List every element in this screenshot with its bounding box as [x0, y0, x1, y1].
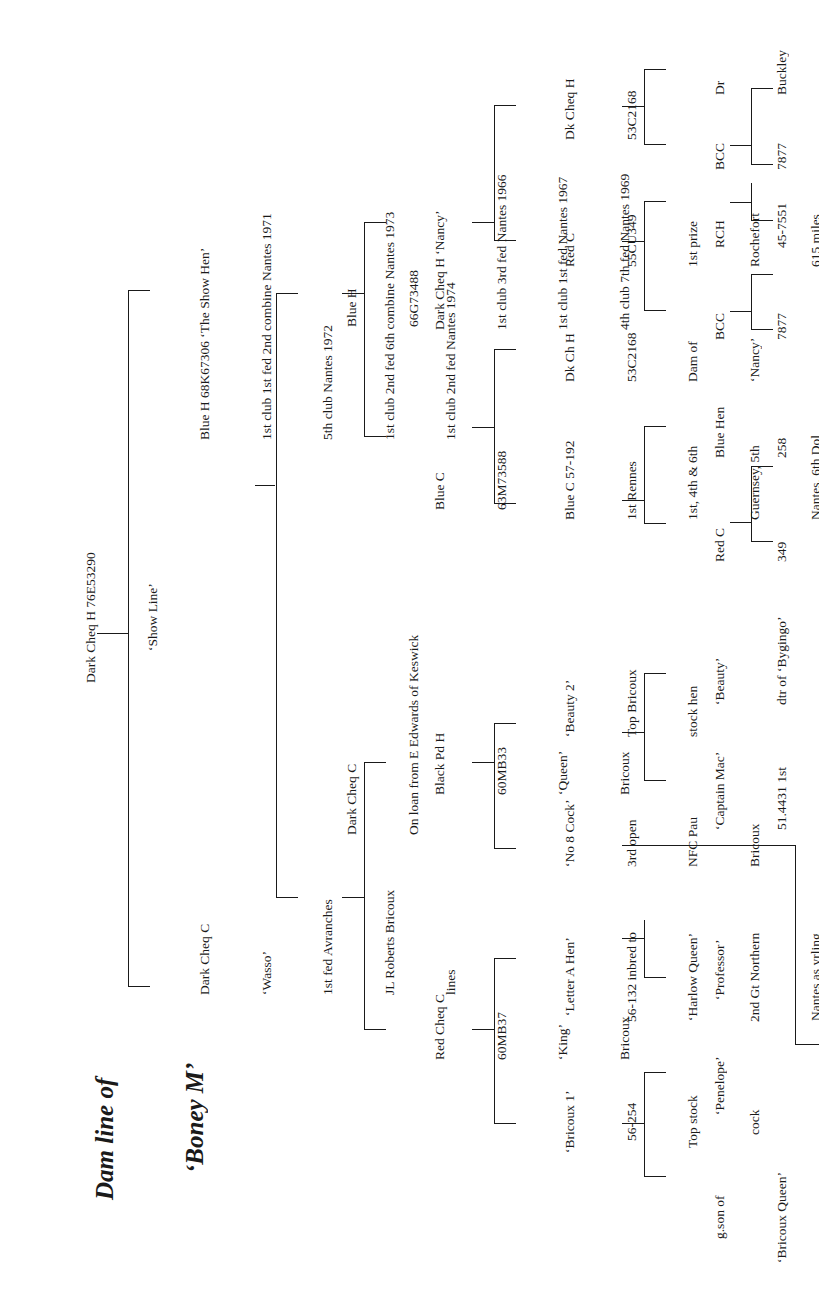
connector	[364, 1029, 386, 1030]
node-line: 51.4431 1st	[772, 738, 793, 830]
node-line: Dk Cheq H	[560, 55, 581, 140]
root-name: Dark Cheq H 76E53290	[81, 520, 102, 715]
node-beauty: ‘Beauty’ dtr of ‘Bygingo’ Twice 2nd Comb…	[669, 600, 819, 705]
connector	[730, 145, 751, 146]
node-line: Blue Hen	[710, 378, 731, 458]
node-241: 241	[776, 200, 819, 230]
node-line: Blue H 68K67306 ‘The Show Hen’	[195, 130, 216, 440]
root-node: Dark Cheq H 76E53290 ‘Show Line’	[40, 520, 184, 715]
node-line: Dr	[710, 35, 731, 95]
node-line: ‘Beauty 2’	[560, 662, 581, 737]
node-line: ‘Bricoux Queen’	[772, 1150, 793, 1285]
connector	[622, 106, 644, 107]
node-line: JL Roberts Bricoux	[380, 840, 401, 995]
node-line: 53C2168	[622, 312, 643, 382]
connector	[644, 780, 666, 781]
connector	[255, 485, 275, 486]
connector	[622, 732, 644, 733]
node-line: On loan from E Edwards of Keswick	[404, 570, 425, 835]
connector	[644, 1176, 666, 1177]
node-dk-cheq-h-53c2168: Dk Cheq H 53C2168	[519, 55, 663, 140]
node-line: Dark Cheq H ‘Nancy’	[430, 115, 451, 330]
node-line: ‘Professor’	[710, 920, 731, 1000]
node-line: 1st club 1st fed 2nd combine Nantes 1971	[257, 130, 278, 440]
node-line: Blue C 57-192	[560, 420, 581, 520]
connector	[644, 426, 666, 427]
connector	[472, 1029, 494, 1030]
connector	[644, 426, 645, 524]
node-3824-b: 3824	[776, 262, 819, 302]
connector	[751, 274, 752, 330]
node-line: Blue H	[342, 242, 363, 327]
connector	[751, 274, 773, 275]
connector	[751, 88, 773, 89]
node-line: BCC	[710, 130, 731, 170]
node-line: RCH	[710, 188, 731, 248]
node-line: ‘Letter A Hen’	[560, 918, 581, 1036]
connector	[751, 329, 773, 330]
connector	[276, 897, 298, 898]
node-7877: 7877	[776, 520, 819, 560]
connector	[364, 762, 365, 1030]
connector	[364, 762, 386, 763]
connector	[494, 503, 516, 504]
connector	[128, 986, 150, 987]
connector	[472, 222, 494, 223]
node-line: Red Cheq C	[430, 975, 451, 1060]
connector	[644, 69, 666, 70]
connector	[751, 88, 752, 165]
connector	[730, 311, 751, 312]
node-line: dtr of ‘Bygingo’	[772, 600, 793, 705]
node-3824-a: 3824	[776, 80, 819, 120]
node-line: ‘Beauty’	[710, 600, 731, 705]
node-line: 56-254	[622, 1087, 643, 1157]
node-1722-b: 1722	[776, 320, 819, 360]
node-line: Red C	[560, 195, 581, 267]
connector	[472, 762, 494, 763]
node-line: 3rd open	[622, 792, 643, 867]
node-captain-mac: ‘Captain Mac’ 51.4431 1st NW Combine Nan…	[669, 738, 819, 830]
connector	[644, 673, 666, 674]
root-nickname: ‘Show Line’	[143, 520, 164, 715]
connector	[751, 466, 773, 467]
connector	[795, 845, 796, 1045]
node-penelope: ‘Penelope’	[669, 1040, 751, 1115]
node-1722-a: 1722	[776, 140, 819, 180]
node-gson-bricoux-queen: g.son of ‘Bricoux Queen’ 1st prize 500 m…	[669, 1150, 819, 1285]
diagram-title: Dam line of ‘Boney M’	[30, 1035, 240, 1200]
node-line: ‘Bricoux 1’	[560, 1087, 581, 1157]
title-line-1: Dam line of	[90, 1035, 120, 1200]
connector	[622, 500, 644, 501]
node-line: ‘Captain Mac’	[710, 738, 731, 830]
connector	[494, 848, 516, 849]
node-professor: ‘Professor’	[669, 920, 751, 1000]
connector	[622, 938, 644, 939]
connector	[644, 310, 666, 311]
node-line: Black Pd H	[430, 710, 451, 795]
connector	[364, 436, 386, 437]
connector	[622, 241, 644, 242]
connector	[494, 349, 495, 504]
connector	[644, 69, 645, 145]
node-line: 56-132 inbred to	[622, 918, 643, 1036]
node-line: 1st fed Avranches	[318, 840, 339, 995]
node-line: BCC	[710, 300, 731, 340]
node-45-7551: 45-7551	[776, 440, 819, 500]
connector	[128, 290, 129, 987]
connector	[494, 349, 516, 350]
connector	[494, 240, 516, 241]
connector	[128, 290, 150, 291]
node-line: lines	[441, 840, 462, 995]
node-line: Top Bricoux	[622, 662, 643, 737]
node-line: Red C	[710, 512, 731, 562]
connector	[472, 427, 494, 428]
connector	[644, 1072, 645, 1177]
connector	[644, 201, 666, 202]
connector	[644, 523, 666, 524]
node-dark-cheq-c-wasso: Dark Cheq C ‘Wasso’ 1st fed Avranches JL…	[154, 840, 482, 995]
connector	[644, 144, 666, 145]
connector	[494, 105, 495, 241]
connector	[751, 541, 773, 542]
connector	[644, 920, 645, 978]
node-line: Dark Cheq C	[195, 840, 216, 995]
